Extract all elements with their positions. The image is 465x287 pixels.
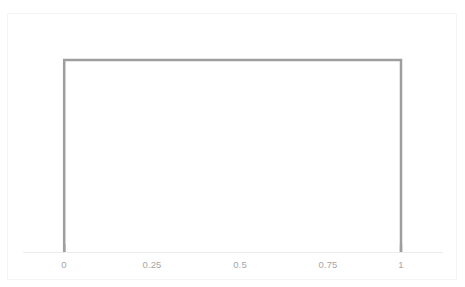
x-tick-label-2: 0.5	[233, 259, 247, 271]
plot-svg	[0, 0, 465, 287]
uniform-pdf-line	[64, 60, 401, 252]
plot-area: 0 0.25 0.5 0.75 1	[0, 0, 465, 287]
chart-container: 0 0.25 0.5 0.75 1	[0, 0, 465, 287]
x-tick-label-0: 0	[61, 259, 66, 271]
x-tick-label-1: 0.25	[142, 259, 161, 271]
x-tick-label-4: 1	[398, 259, 403, 271]
x-tick-label-3: 0.75	[318, 259, 337, 271]
